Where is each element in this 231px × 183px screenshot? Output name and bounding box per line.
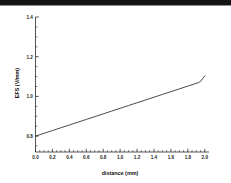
x-tick-label: 0.0 [32, 155, 39, 160]
y-tick-label: 1.4 [27, 15, 34, 20]
x-tick-label: 2.0 [202, 155, 209, 160]
x-tick-label: 0.6 [83, 155, 90, 160]
x-tick-label: 1.2 [134, 155, 141, 160]
y-tick-label: 1.0 [27, 94, 34, 99]
figure-canvas: 0.00.20.40.60.81.01.21.41.61.82.00.81.01… [0, 0, 231, 183]
data-series-group [36, 76, 205, 136]
x-tick-label: 1.8 [185, 155, 192, 160]
x-axis-title: distance (mm) [102, 170, 139, 176]
axis-tick-labels: 0.00.20.40.60.81.01.21.41.61.82.00.81.01… [27, 15, 209, 160]
y-tick-label: 0.8 [27, 134, 34, 139]
x-tick-label: 0.8 [100, 155, 107, 160]
x-tick-label: 0.2 [49, 155, 56, 160]
chart-plot: 0.00.20.40.60.81.01.21.41.61.82.00.81.01… [0, 0, 231, 183]
data-series-line [36, 76, 205, 136]
x-tick-label: 1.6 [168, 155, 175, 160]
y-axis-title: EFS (V/mm) [14, 68, 20, 98]
axis-ticks [36, 17, 205, 152]
x-tick-label: 1.0 [117, 155, 124, 160]
x-tick-label: 1.4 [151, 155, 158, 160]
y-tick-label: 1.2 [27, 55, 34, 60]
x-tick-label: 0.4 [66, 155, 73, 160]
